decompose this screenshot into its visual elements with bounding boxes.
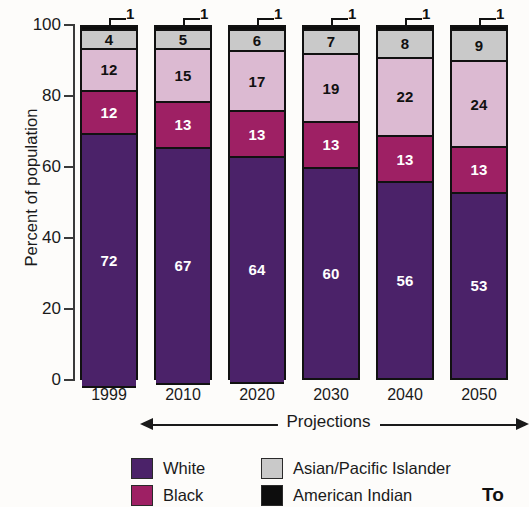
legend-swatch-icon bbox=[131, 458, 153, 479]
segment-value-label: 64 bbox=[248, 261, 265, 278]
segment-white-2010[interactable]: 67 bbox=[156, 147, 210, 385]
callout-leader-horizontal bbox=[109, 18, 126, 20]
segment-white-2050[interactable]: 53 bbox=[452, 192, 506, 380]
y-axis-tick-label: 40 bbox=[1, 229, 61, 246]
legend-label: Black bbox=[163, 486, 203, 505]
segment-value-label: 5 bbox=[179, 31, 188, 48]
segment-value-label: 13 bbox=[174, 116, 191, 133]
legend-label: Asian/Pacific Islander bbox=[293, 459, 451, 478]
callout-leader-horizontal bbox=[257, 18, 274, 20]
segment-white-1999[interactable]: 72 bbox=[82, 133, 136, 389]
segment-hispanic-2020[interactable]: 17 bbox=[230, 50, 284, 110]
segment-asian-2050[interactable]: 9 bbox=[452, 29, 506, 61]
x-axis-tick-label-2050: 2050 bbox=[450, 386, 508, 404]
bar-2050[interactable]: 9241353 bbox=[450, 25, 508, 380]
segment-value-label: 19 bbox=[322, 80, 339, 97]
bar-2010[interactable]: 5151367 bbox=[154, 25, 212, 380]
legend-item-black[interactable]: Black bbox=[131, 485, 261, 506]
bar-2040[interactable]: 8221356 bbox=[376, 25, 434, 380]
segment-value-label: 60 bbox=[322, 265, 339, 282]
projections-annotation: Projections bbox=[130, 412, 527, 438]
segment-value-label: 53 bbox=[470, 277, 487, 294]
callout-value-label: 1 bbox=[200, 6, 208, 21]
callout-leader-horizontal bbox=[405, 18, 422, 20]
callout-value-label: 1 bbox=[348, 6, 356, 21]
bar-1999[interactable]: 4121272 bbox=[80, 25, 138, 380]
chart-legend: WhiteAsian/Pacific IslanderBlackAmerican… bbox=[131, 458, 527, 507]
segment-black-1999[interactable]: 12 bbox=[82, 90, 136, 133]
segment-asian-2030[interactable]: 7 bbox=[304, 29, 358, 54]
segment-white-2020[interactable]: 64 bbox=[230, 156, 284, 383]
segment-value-label: 12 bbox=[100, 104, 117, 121]
segment-asian-1999[interactable]: 4 bbox=[82, 29, 136, 48]
arrow-left-icon bbox=[140, 418, 153, 430]
segment-value-label: 24 bbox=[470, 96, 487, 113]
plot-area: 4121272515136761713647191360822135692413… bbox=[80, 25, 517, 380]
y-axis-tick-label: 20 bbox=[1, 300, 61, 317]
segment-value-label: 7 bbox=[327, 33, 336, 50]
segment-hispanic-2030[interactable]: 19 bbox=[304, 53, 358, 120]
y-axis-tick bbox=[64, 95, 75, 97]
y-axis-tick-label: 60 bbox=[1, 158, 61, 175]
callout-value-label: 1 bbox=[422, 6, 430, 21]
legend-item-american-indian[interactable]: American Indian bbox=[261, 485, 412, 506]
corner-note: To bbox=[482, 484, 504, 506]
y-axis-tick-label: 100 bbox=[1, 16, 61, 33]
y-axis-tick bbox=[64, 166, 75, 168]
segment-value-label: 67 bbox=[174, 257, 191, 274]
bar-2020[interactable]: 6171364 bbox=[228, 25, 286, 380]
callout-leader-horizontal bbox=[479, 18, 496, 20]
segment-value-label: 4 bbox=[105, 31, 114, 48]
callout-value-label: 1 bbox=[496, 6, 504, 21]
segment-value-label: 13 bbox=[396, 151, 413, 168]
segment-value-label: 9 bbox=[475, 37, 484, 54]
segment-value-label: 12 bbox=[100, 61, 117, 78]
x-axis-tick-label-1999: 1999 bbox=[80, 386, 138, 404]
segment-value-label: 15 bbox=[174, 67, 191, 84]
segment-value-label: 13 bbox=[248, 126, 265, 143]
segment-hispanic-1999[interactable]: 12 bbox=[82, 48, 136, 91]
segment-black-2010[interactable]: 13 bbox=[156, 101, 210, 147]
legend-label: American Indian bbox=[293, 486, 412, 505]
x-axis-tick-label-2020: 2020 bbox=[228, 386, 286, 404]
projections-label: Projections bbox=[277, 412, 379, 432]
segment-black-2050[interactable]: 13 bbox=[452, 146, 506, 192]
segment-black-2040[interactable]: 13 bbox=[378, 135, 432, 181]
legend-row: WhiteAsian/Pacific Islander bbox=[131, 458, 527, 485]
callout-leader-horizontal bbox=[183, 18, 200, 20]
segment-white-2040[interactable]: 56 bbox=[378, 181, 432, 380]
x-axis-tick-label-2010: 2010 bbox=[154, 386, 212, 404]
y-axis-tick bbox=[64, 237, 75, 239]
callout-value-label: 1 bbox=[126, 6, 134, 21]
segment-value-label: 72 bbox=[100, 252, 117, 269]
callout-value-label: 1 bbox=[274, 6, 282, 21]
y-axis-tick-label: 80 bbox=[1, 87, 61, 104]
segment-asian-2040[interactable]: 8 bbox=[378, 29, 432, 57]
segment-black-2020[interactable]: 13 bbox=[230, 110, 284, 156]
y-axis-tick bbox=[64, 379, 75, 381]
legend-label: White bbox=[163, 459, 205, 478]
x-axis-tick-label-2030: 2030 bbox=[302, 386, 360, 404]
legend-swatch-icon bbox=[261, 485, 283, 506]
segment-value-label: 13 bbox=[322, 136, 339, 153]
legend-item-white[interactable]: White bbox=[131, 458, 261, 479]
legend-swatch-icon bbox=[261, 458, 283, 479]
segment-value-label: 56 bbox=[396, 272, 413, 289]
segment-white-2030[interactable]: 60 bbox=[304, 167, 358, 380]
segment-value-label: 17 bbox=[248, 73, 265, 90]
y-axis-tick bbox=[64, 308, 75, 310]
segment-asian-2020[interactable]: 6 bbox=[230, 29, 284, 50]
segment-hispanic-2050[interactable]: 24 bbox=[452, 60, 506, 145]
segment-value-label: 8 bbox=[401, 35, 410, 52]
segment-hispanic-2040[interactable]: 22 bbox=[378, 57, 432, 135]
x-axis-tick-label-2040: 2040 bbox=[376, 386, 434, 404]
y-axis-tick bbox=[64, 24, 75, 26]
bar-2030[interactable]: 7191360 bbox=[302, 25, 360, 380]
segment-asian-2010[interactable]: 5 bbox=[156, 29, 210, 48]
segment-hispanic-2010[interactable]: 15 bbox=[156, 48, 210, 101]
segment-black-2030[interactable]: 13 bbox=[304, 121, 358, 167]
legend-item-asian-pacific-islander[interactable]: Asian/Pacific Islander bbox=[261, 458, 451, 479]
arrow-right-icon bbox=[516, 418, 529, 430]
segment-value-label: 13 bbox=[470, 161, 487, 178]
